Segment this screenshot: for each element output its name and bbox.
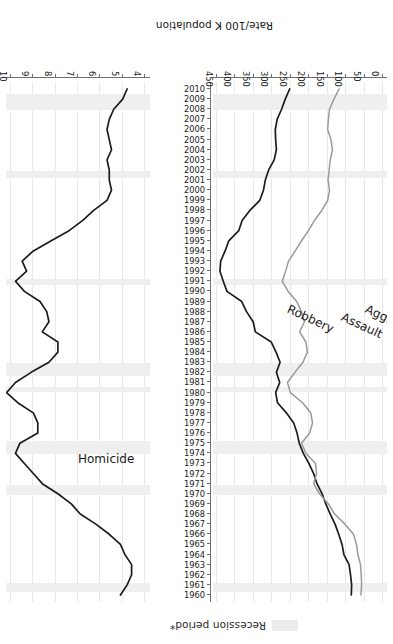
figure: Recession period* Aggravated Assault Rob… — [0, 0, 393, 644]
year-axis-tick — [207, 189, 211, 190]
year-axis-tick-label: 1972 — [184, 469, 205, 477]
year-axis-tick-label: 2007 — [184, 115, 205, 123]
year-axis-tick — [207, 341, 211, 342]
rate-axis-tick-label: 150 — [315, 71, 323, 87]
year-axis-tick-label: 1981 — [184, 378, 205, 386]
year-axis-tick-label: 1982 — [184, 368, 205, 376]
year-axis-tick-label: 2005 — [184, 135, 205, 143]
rate-axis-tick-label: 10 — [0, 71, 7, 82]
year-axis-tick-label: 1962 — [184, 570, 205, 578]
year-axis-tick-label: 1983 — [184, 358, 205, 366]
year-axis-tick-label: 2010 — [184, 85, 205, 93]
rate-axis-right-spine — [6, 77, 150, 78]
year-axis-tick — [207, 361, 211, 362]
rate-axis-tick — [99, 74, 100, 78]
year-axis-tick — [207, 321, 211, 322]
year-axis-tick — [207, 290, 211, 291]
year-axis-tick-label: 1995 — [184, 237, 205, 245]
year-axis-tick — [207, 179, 211, 180]
year-axis-tick — [207, 128, 211, 129]
year-axis-tick — [207, 483, 211, 484]
year-axis-tick-label: 1977 — [184, 419, 205, 427]
year-axis-tick-label: 1990 — [184, 287, 205, 295]
year-axis-tick-label: 1997 — [184, 216, 205, 224]
year-axis-tick-label: 2003 — [184, 156, 205, 164]
plot-panel-left: Aggravated Assault Robbery — [213, 82, 387, 602]
year-axis-tick-label: 1988 — [184, 307, 205, 315]
year-axis-tick-label: 2006 — [184, 125, 205, 133]
year-axis-tick-label: 1999 — [184, 196, 205, 204]
year-axis-tick — [207, 351, 211, 352]
year-axis-tick-label: 1985 — [184, 338, 205, 346]
rate-axis-tick-label: 400 — [223, 71, 231, 87]
year-axis-tick-label: 1979 — [184, 398, 205, 406]
year-axis-tick — [207, 159, 211, 160]
year-axis-tick-label: 1967 — [184, 520, 205, 528]
year-axis-tick — [207, 533, 211, 534]
year-axis-tick-label: 2001 — [184, 176, 205, 184]
year-axis-tick-label: 1966 — [184, 530, 205, 538]
line-homicide — [7, 89, 132, 595]
rate-axis-tick-label: 200 — [297, 71, 305, 87]
year-axis-tick — [207, 139, 211, 140]
line-robbery — [282, 89, 361, 595]
rate-axis-tick-label: 450 — [205, 71, 213, 87]
rate-axis-tick-label: 7 — [66, 71, 74, 76]
year-axis-tick — [207, 452, 211, 453]
legend: Recession period* — [170, 620, 298, 632]
year-axis-tick — [207, 270, 211, 271]
series-group-right — [6, 82, 150, 602]
year-axis-tick — [207, 240, 211, 241]
year-axis-tick — [207, 523, 211, 524]
rate-axis-tick — [216, 74, 217, 78]
year-axis-tick — [207, 199, 211, 200]
year-axis-tick-label: 1984 — [184, 348, 205, 356]
year-axis-tick — [207, 108, 211, 109]
year-axis-tick — [207, 280, 211, 281]
year-axis-tick-label: 1965 — [184, 540, 205, 548]
rate-axis-tick — [144, 74, 145, 78]
rate-axis-tick-label: 350 — [242, 71, 250, 87]
year-axis-tick-label: 1991 — [184, 277, 205, 285]
rate-axis-tick — [382, 74, 383, 78]
rate-axis-left: 050100150200250300350400450 — [213, 38, 387, 78]
year-axis-tick — [207, 88, 211, 89]
year-axis-tick — [207, 422, 211, 423]
rate-axis-tick — [234, 74, 235, 78]
year-axis-tick-label: 1996 — [184, 226, 205, 234]
rate-axis-tick-label: 4 — [133, 71, 141, 76]
year-axis-tick-label: 2000 — [184, 186, 205, 194]
rate-axis-tick — [364, 74, 365, 78]
year-axis-tick-label: 2009 — [184, 95, 205, 103]
year-axis-tick — [207, 564, 211, 565]
rate-axis-tick — [77, 74, 78, 78]
year-axis-tick — [207, 331, 211, 332]
year-axis-tick — [207, 402, 211, 403]
year-axis-tick-label: 1971 — [184, 479, 205, 487]
year-axis-tick-label: 1969 — [184, 500, 205, 508]
rate-axis-tick — [308, 74, 309, 78]
year-axis-tick-label: 1974 — [184, 449, 205, 457]
year-axis-tick-label: 1968 — [184, 510, 205, 518]
year-axis-tick — [207, 149, 211, 150]
year-axis-tick-label: 1993 — [184, 257, 205, 265]
rate-axis-tick — [32, 74, 33, 78]
year-axis-tick-label: 1963 — [184, 560, 205, 568]
year-axis-tick-label: 2008 — [184, 105, 205, 113]
year-axis-tick — [207, 493, 211, 494]
year-axis-tick — [207, 371, 211, 372]
year-axis-tick — [207, 209, 211, 210]
rate-axis-tick — [271, 74, 272, 78]
year-axis-tick — [207, 584, 211, 585]
year-axis-tick — [207, 98, 211, 99]
series-group-left — [213, 82, 387, 602]
year-axis-tick — [207, 574, 211, 575]
year-axis-tick-label: 1960 — [184, 591, 205, 599]
year-axis-tick — [207, 381, 211, 382]
year-axis-tick — [207, 503, 211, 504]
year-axis-tick-label: 1961 — [184, 581, 205, 589]
rate-axis-tick-label: 50 — [352, 71, 360, 82]
year-axis-tick-label: 1986 — [184, 328, 205, 336]
rate-axis-tick-label: 300 — [260, 71, 268, 87]
year-axis-tick — [207, 301, 211, 302]
